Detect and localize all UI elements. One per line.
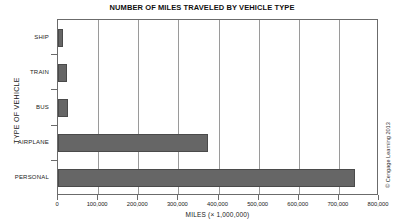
x-axis-tick-label: 600,000 [287, 201, 308, 207]
bar-bus [58, 99, 68, 117]
x-axis-ticks [57, 195, 378, 200]
y-axis-tick-label: BUS [36, 104, 49, 110]
chart-title: NUMBER OF MILES TRAVELED BY VEHICLE TYPE [0, 3, 404, 12]
bar-row [58, 20, 63, 55]
x-axis-tick-label: 500,000 [247, 201, 268, 207]
y-axis-tick-labels: SHIPTRAINBUSAIRPLANEPERSONAL [0, 19, 53, 195]
x-axis-tick [137, 195, 138, 200]
x-axis-tick [218, 195, 219, 200]
x-axis-tick-label: 700,000 [327, 201, 348, 207]
y-axis-tick-label: AIRPLANE [18, 139, 49, 145]
bar-ship [58, 29, 63, 47]
bar-row [58, 126, 208, 161]
bar-series [58, 20, 377, 194]
x-axis-tick-label: 400,000 [207, 201, 228, 207]
x-axis-tick-label: 100,000 [87, 201, 108, 207]
x-axis-tick-label: 200,000 [127, 201, 148, 207]
bar-personal [58, 169, 355, 187]
bar-row [58, 90, 68, 125]
x-axis-tick [378, 195, 379, 200]
bar-row [58, 161, 355, 196]
copyright-credit: © Cengage Learning 2013 [385, 109, 391, 201]
y-axis-tick-label: TRAIN [30, 69, 49, 75]
chart-figure: NUMBER OF MILES TRAVELED BY VEHICLE TYPE… [0, 0, 404, 224]
x-axis-tick [57, 195, 58, 200]
x-axis-title: MILES (× 1,000,000) [57, 211, 378, 218]
bar-train [58, 64, 67, 82]
y-axis-tick-label: PERSONAL [15, 174, 49, 180]
x-axis-tick [298, 195, 299, 200]
x-axis-tick-label: 800,000 [368, 201, 389, 207]
y-axis-tick-label: SHIP [34, 34, 49, 40]
plot-area [57, 19, 378, 195]
x-axis-tick [338, 195, 339, 200]
bar-airplane [58, 134, 208, 152]
x-axis-tick-label: 300,000 [167, 201, 188, 207]
x-axis-tick [177, 195, 178, 200]
bar-row [58, 55, 67, 90]
x-axis-tick-label: 0 [55, 201, 58, 207]
x-axis-tick [97, 195, 98, 200]
x-axis-tick-labels: 0100,000200,000300,000400,000500,000600,… [57, 201, 378, 211]
x-axis-tick [258, 195, 259, 200]
